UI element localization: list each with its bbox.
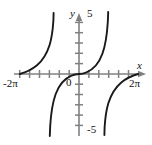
coordinate-plot	[0, 0, 152, 145]
y-axis-tick-label-5: 5	[87, 8, 93, 19]
origin-label: 0	[66, 77, 72, 88]
graph-figure: y x 5 -5 0 -2π 2π	[0, 0, 152, 145]
y-axis-label: y	[70, 8, 75, 19]
curve-left-branch	[20, 13, 54, 74]
y-axis-tick-label-minus-5: -5	[87, 124, 96, 135]
x-axis-tick-label-minus-2pi: -2π	[3, 78, 18, 89]
x-axis-tick-label-2pi: 2π	[129, 78, 140, 89]
x-axis-label: x	[137, 60, 142, 71]
